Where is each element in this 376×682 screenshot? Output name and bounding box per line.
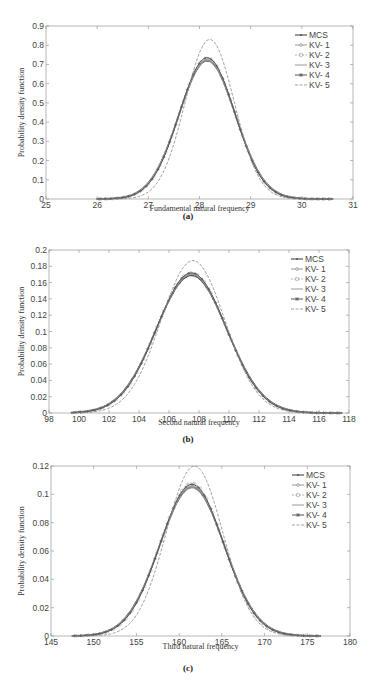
series-curve-kv-1 [72, 274, 342, 413]
legend: MCSKV- 1KV- 2KV- 3KV- 4KV- 5 [292, 470, 327, 530]
y-tick-label: 0.06 [32, 546, 49, 556]
caption-a: (a) [0, 211, 376, 221]
y-tick-label: 0 [39, 194, 44, 204]
y-tick-label: 0.08 [30, 343, 47, 353]
legend-entry: KV- 3 [305, 284, 326, 294]
y-tick-label: 0.18 [30, 261, 47, 271]
series-curve-mcs [72, 275, 342, 413]
legend: MCSKV- 1KV- 2KV- 3KV- 4KV- 5 [291, 254, 326, 314]
y-tick-label: 0.3 [32, 136, 44, 146]
legend-entry: KV- 1 [305, 264, 326, 274]
y-tick-label: 0.2 [32, 156, 44, 166]
x-tick-label: 31 [348, 200, 358, 210]
x-tick-label: 170 [257, 637, 271, 647]
legend-entry: KV- 1 [309, 40, 330, 50]
series-curve-kv-2 [72, 273, 342, 413]
y-tick-label: 0 [42, 408, 47, 418]
legend-entry: MCS [309, 30, 328, 40]
chart-panel-a: 2526272829303100.10.20.30.40.50.60.70.80… [0, 0, 376, 226]
series-curve-mcs [97, 61, 332, 199]
y-tick-label: 0.06 [30, 359, 47, 369]
x-tick-label: 155 [129, 637, 143, 647]
legend-entry: KV- 2 [306, 490, 327, 500]
y-tick-label: 0.04 [30, 375, 47, 385]
legend-entry: KV- 4 [305, 294, 326, 304]
legend-entry: KV- 5 [306, 520, 327, 530]
series-curve-kv-4 [72, 273, 342, 413]
x-tick-label: 180 [343, 637, 357, 647]
series-curve-kv-2 [72, 483, 320, 636]
y-tick-label: 0.12 [32, 461, 49, 471]
series-curve-kv-5 [72, 261, 342, 413]
y-tick-label: 0.1 [37, 489, 49, 499]
pdf-chart-fundamental: 2526272829303100.10.20.30.40.50.60.70.80… [0, 0, 376, 215]
chart-panel-b: 9810010210410610811011211411611800.020.0… [0, 228, 376, 454]
legend-entry: KV- 4 [306, 510, 327, 520]
x-tick-label: 100 [72, 414, 86, 424]
y-tick-label: 0.16 [30, 278, 47, 288]
series-curve-kv-3 [72, 487, 320, 636]
y-tick-label: 0.4 [32, 117, 44, 127]
legend-entry: KV- 3 [309, 60, 330, 70]
series-curve-kv-1 [97, 60, 332, 199]
legend-entry: KV- 4 [309, 70, 330, 80]
y-tick-label: 0.5 [32, 98, 44, 108]
y-tick-label: 0.9 [32, 21, 44, 31]
y-tick-label: 0.2 [35, 245, 47, 255]
legend-entry: KV- 2 [309, 50, 330, 60]
pdf-chart-third: 14515015516016517017518000.020.040.060.0… [0, 454, 376, 668]
y-tick-label: 0.8 [32, 40, 44, 50]
series-curve-kv-4 [72, 484, 320, 636]
y-tick-label: 0 [44, 631, 49, 641]
y-axis-label: Probability density function [17, 506, 26, 595]
y-tick-label: 0.02 [32, 603, 49, 613]
x-axis-label: Third natural frequency [163, 642, 239, 651]
series-curve-kv-5 [72, 466, 320, 636]
x-tick-label: 104 [132, 414, 146, 424]
legend-entry: KV- 3 [306, 500, 327, 510]
series-curve-mcs [72, 487, 320, 636]
legend-entry: KV- 2 [305, 274, 326, 284]
legend-entry: MCS [305, 254, 324, 264]
y-tick-label: 0.04 [32, 574, 49, 584]
y-axis-label: Probability density function [17, 287, 26, 376]
x-tick-label: 112 [252, 414, 266, 424]
series-curve-kv-3 [72, 275, 342, 414]
y-tick-label: 0.12 [30, 310, 47, 320]
legend-entry: MCS [306, 470, 325, 480]
y-tick-label: 0.6 [32, 79, 44, 89]
x-tick-label: 26 [92, 200, 102, 210]
x-tick-label: 150 [87, 637, 101, 647]
series-curve-kv-4 [97, 58, 332, 199]
y-tick-label: 0.1 [32, 175, 44, 185]
legend-entry: KV- 5 [305, 304, 326, 314]
x-tick-label: 116 [312, 414, 326, 424]
y-tick-label: 0.14 [30, 294, 47, 304]
x-tick-label: 175 [300, 637, 314, 647]
series-curve-kv-2 [97, 59, 332, 199]
x-tick-label: 118 [342, 414, 356, 424]
y-tick-label: 0.02 [30, 392, 47, 402]
caption-b: (b) [0, 434, 376, 444]
series-curve-kv-1 [72, 486, 320, 636]
legend: MCSKV- 1KV- 2KV- 3KV- 4KV- 5 [295, 30, 330, 90]
y-axis-label: Probability density function [17, 68, 26, 157]
legend-entry: KV- 1 [306, 480, 327, 490]
series-curve-kv-3 [97, 61, 332, 199]
y-tick-label: 0.7 [32, 59, 44, 69]
x-tick-label: 114 [282, 414, 296, 424]
x-axis-label: Second natural frequency [158, 418, 240, 427]
pdf-chart-second: 9810010210410610811011211411611800.020.0… [0, 228, 376, 438]
y-tick-label: 0.1 [35, 327, 47, 337]
legend-entry: KV- 5 [309, 80, 330, 90]
caption-c: (c) [0, 663, 376, 673]
x-tick-label: 102 [102, 414, 116, 424]
chart-panel-c: 14515015516016517017518000.020.040.060.0… [0, 454, 376, 682]
y-tick-label: 0.08 [32, 518, 49, 528]
x-tick-label: 30 [297, 200, 307, 210]
